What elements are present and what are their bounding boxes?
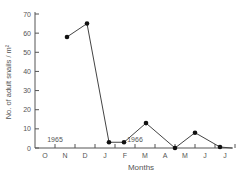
y-tick-label: 30 — [23, 87, 31, 94]
data-point — [193, 130, 198, 135]
y-tick-label: 50 — [23, 49, 31, 56]
y-tick-label: 40 — [23, 68, 31, 75]
data-series — [65, 21, 232, 150]
x-tick-label: N — [62, 152, 67, 159]
x-tick-label: M — [182, 152, 188, 159]
x-tick-label: F — [123, 152, 127, 159]
y-tick-label: 70 — [23, 11, 31, 18]
series-line — [67, 24, 232, 148]
x-tick-label: J — [103, 152, 107, 159]
y-tick-label: 20 — [23, 106, 31, 113]
x-tick-label: A — [163, 152, 168, 159]
y-tick-label: 0 — [27, 145, 31, 152]
x-tick-label: J — [203, 152, 207, 159]
data-point — [218, 145, 223, 150]
x-axis-label: Months — [128, 163, 154, 172]
x-tick-label: M — [142, 152, 148, 159]
y-axis: 010203040506070 — [23, 11, 39, 152]
data-point — [85, 21, 90, 26]
data-point — [144, 121, 149, 126]
y-axis-label: No. of adult snails / m² — [4, 44, 13, 119]
y-tick-label: 10 — [23, 125, 31, 132]
data-point — [122, 140, 127, 145]
x-axis: ONDJFMAMJJ — [35, 144, 235, 159]
data-point — [173, 146, 178, 151]
year-annotations: 19651966 — [47, 136, 143, 143]
x-tick-label: J — [223, 152, 227, 159]
x-tick-label: D — [82, 152, 87, 159]
y-tick-label: 60 — [23, 30, 31, 37]
line-chart: 010203040506070 ONDJFMAMJJ 19651966 Mont… — [0, 0, 246, 178]
data-point — [65, 35, 70, 40]
year-1965-label: 1965 — [47, 136, 63, 143]
data-point — [107, 140, 112, 145]
x-tick-label: O — [42, 152, 48, 159]
